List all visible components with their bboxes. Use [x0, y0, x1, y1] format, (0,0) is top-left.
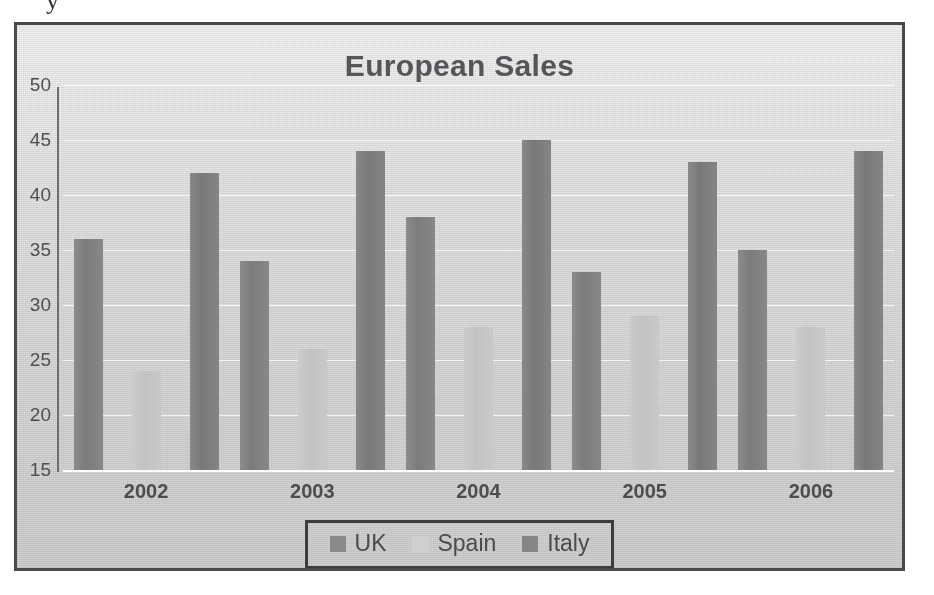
y-axis-tick-label: 25: [30, 349, 51, 371]
bar-uk-2004: [406, 217, 435, 470]
gridline-35: 35: [63, 250, 894, 251]
bar-uk-2003: [240, 261, 269, 470]
bar-uk-2006: [738, 250, 767, 470]
legend-label-spain: Spain: [437, 530, 496, 557]
bar-italy-2003: [356, 151, 385, 470]
legend-item-spain[interactable]: Spain: [412, 530, 496, 557]
legend-label-uk: UK: [355, 530, 387, 557]
y-axis-tick-label: 45: [30, 129, 51, 151]
bar-italy-2002: [190, 173, 219, 470]
x-axis-label-2006: 2006: [789, 480, 834, 503]
y-axis-tick-label: 40: [30, 184, 51, 206]
chart-legend[interactable]: UKSpainItaly: [305, 520, 615, 569]
bar-spain-2005: [630, 316, 659, 470]
y-axis-tick-label: 30: [30, 294, 51, 316]
bar-spain-2003: [298, 349, 327, 470]
bar-italy-2005: [688, 162, 717, 470]
legend-swatch-icon-spain: [412, 536, 428, 552]
gridline-50: 50: [63, 85, 894, 86]
chart-frame: European Sales 1520253035404550 20022003…: [14, 22, 905, 571]
plot-area: 1520253035404550: [63, 85, 894, 470]
legend-swatch-icon-uk: [330, 536, 346, 552]
chart-title: European Sales: [17, 49, 902, 83]
bar-spain-2004: [464, 327, 493, 470]
bar-italy-2004: [522, 140, 551, 470]
legend-item-italy[interactable]: Italy: [522, 530, 589, 557]
y-axis-tick-label: 20: [30, 404, 51, 426]
bar-italy-2006: [854, 151, 883, 470]
x-axis-label-2005: 2005: [622, 480, 667, 503]
legend-label-italy: Italy: [547, 530, 589, 557]
y-axis-spine: [57, 87, 59, 472]
x-axis-label-2002: 2002: [124, 480, 169, 503]
x-axis-label-2004: 2004: [456, 480, 501, 503]
gridline-40: 40: [63, 195, 894, 196]
gridline-45: 45: [63, 140, 894, 141]
y-axis-tick-label: 15: [30, 459, 51, 481]
x-axis-labels: 20022003200420052006: [63, 480, 894, 514]
legend-item-uk[interactable]: UK: [330, 530, 387, 557]
y-axis-tick-label: 35: [30, 239, 51, 261]
bar-spain-2006: [796, 327, 825, 470]
bar-uk-2005: [572, 272, 601, 470]
x-axis-label-2003: 2003: [290, 480, 335, 503]
gridline-15: 15: [63, 470, 894, 472]
legend-swatch-icon-italy: [522, 536, 538, 552]
bar-uk-2002: [74, 239, 103, 470]
gridline-30: 30: [63, 305, 894, 306]
bar-spain-2002: [132, 371, 161, 470]
scan-artifact-glyph: y: [46, 0, 59, 14]
